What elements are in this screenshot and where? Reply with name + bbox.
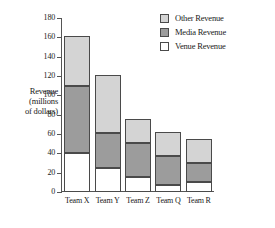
bar-segment-venue[interactable] xyxy=(186,182,212,192)
bar-segment-media[interactable] xyxy=(64,86,90,154)
legend-label-media-revenue: Media Revenue xyxy=(175,27,226,37)
bar-segment-venue[interactable] xyxy=(64,153,90,192)
bar-segment-other[interactable] xyxy=(95,75,121,133)
y-tick-label: 100 xyxy=(44,91,55,99)
bar-segment-media[interactable] xyxy=(186,163,212,182)
y-tick-label: 20 xyxy=(47,169,55,177)
bar-group[interactable]: Team Z xyxy=(125,18,151,192)
legend-label-other-revenue: Other Revenue xyxy=(175,13,224,23)
bar-segment-venue[interactable] xyxy=(95,168,121,192)
bar-segment-other[interactable] xyxy=(155,132,181,156)
legend-swatch-media-revenue xyxy=(160,28,169,37)
bar-segment-media[interactable] xyxy=(125,143,151,177)
y-tick-mark xyxy=(57,192,62,193)
x-axis-label: Team X xyxy=(65,196,89,205)
y-tick-label: 180 xyxy=(44,14,55,22)
legend-swatch-venue-revenue xyxy=(160,42,169,51)
y-tick-label: 40 xyxy=(47,149,55,157)
bar-segment-other[interactable] xyxy=(186,139,212,163)
bar-segment-other[interactable] xyxy=(125,119,151,143)
x-axis-label: Team R xyxy=(187,196,211,205)
y-tick-label: 0 xyxy=(51,188,55,196)
bar-segment-venue[interactable] xyxy=(125,177,151,192)
bar-segment-media[interactable] xyxy=(155,156,181,185)
bar-segment-venue[interactable] xyxy=(155,185,181,192)
legend-label-venue-revenue: Venue Revenue xyxy=(175,41,226,51)
y-tick-label: 60 xyxy=(47,130,55,138)
x-axis-label: Team Y xyxy=(96,196,120,205)
legend-item-other-revenue: Other Revenue xyxy=(160,13,226,23)
legend-item-venue-revenue: Venue Revenue xyxy=(160,41,226,51)
y-tick-label: 120 xyxy=(44,72,55,80)
bar-group[interactable]: Team Y xyxy=(95,18,121,192)
bar-segment-other[interactable] xyxy=(64,36,90,85)
bar-segment-media[interactable] xyxy=(95,133,121,168)
y-tick-label: 160 xyxy=(44,33,55,41)
legend-item-media-revenue: Media Revenue xyxy=(160,27,226,37)
legend-swatch-other-revenue xyxy=(160,14,169,23)
y-tick-label: 140 xyxy=(44,53,55,61)
stacked-bar-chart: Revenue (millions of dollars) 0204060801… xyxy=(0,0,275,228)
x-axis-label: Team Z xyxy=(126,196,149,205)
chart-legend: Other Revenue Media Revenue Venue Revenu… xyxy=(160,13,226,51)
y-tick-label: 80 xyxy=(47,111,55,119)
bar-group[interactable]: Team X xyxy=(64,18,90,192)
x-axis-label: Team Q xyxy=(156,196,180,205)
